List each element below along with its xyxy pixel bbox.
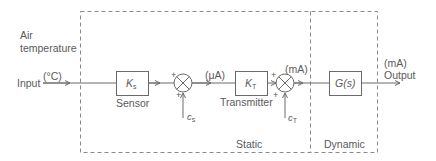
- disturbance-ct-label: cT: [288, 113, 297, 123]
- microamp-unit-label: (μA): [205, 70, 225, 81]
- static-region-label: Static: [236, 139, 262, 150]
- dynamic-transfer-function: G(s): [335, 78, 355, 89]
- transmitter-gain-symbol: KT: [245, 78, 256, 89]
- sum2-sign-bottom: +: [273, 91, 278, 100]
- output-label: Output: [384, 70, 416, 81]
- dynamic-region-label: Dynamic: [324, 139, 365, 150]
- output-unit: (mA): [384, 58, 407, 69]
- input-label: Input: [17, 78, 40, 89]
- input-label-air: Air: [20, 30, 33, 41]
- sum2-sign-top: +: [271, 71, 276, 80]
- input-label-temperature: temperature: [20, 43, 77, 54]
- sum1-sign-bottom: +: [176, 91, 181, 100]
- summing-junction-2: [276, 74, 294, 92]
- sensor-caption: Sensor: [116, 98, 149, 109]
- input-unit: (°C): [43, 71, 62, 82]
- transmitter-caption: Transmitter: [220, 97, 273, 108]
- milliamp-unit-label: (mA): [285, 64, 308, 75]
- disturbance-cs-label: cs: [187, 112, 195, 122]
- sum1-sign-top: +: [171, 71, 176, 80]
- sensor-gain-symbol: Ks: [126, 78, 137, 89]
